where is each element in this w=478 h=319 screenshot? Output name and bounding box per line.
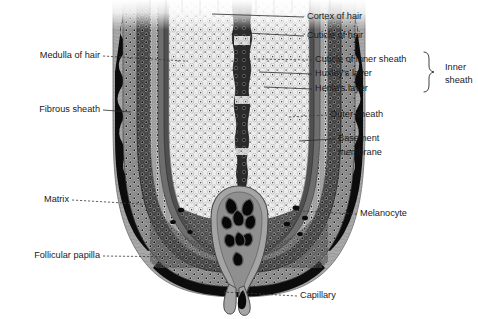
- label-capillary: Capillary: [300, 290, 336, 300]
- label-medulla-of-hair: Medulla of hair: [40, 50, 100, 60]
- hair-follicle-diagram: Medulla of hair Fibrous sheath Matrix Fo…: [0, 0, 478, 319]
- label-inner-sheath-line2: sheath: [445, 75, 473, 85]
- label-cuticle-of-hair: Cuticle of hair: [307, 30, 363, 40]
- label-basement-membrane-line1: Basement: [338, 133, 380, 143]
- label-matrix: Matrix: [44, 194, 69, 204]
- label-outer-sheath: Outer sheath: [330, 109, 383, 119]
- label-cuticle-of-inner-sheath: Cuticle of inner sheath: [315, 54, 406, 64]
- label-huxleys-layer: Huxley's layer: [315, 68, 372, 78]
- label-basement-membrane-line2: membrane: [338, 147, 382, 157]
- label-henles-layer: Henle's layer: [315, 83, 368, 93]
- follicle-illustration: Medulla of hair Fibrous sheath Matrix Fo…: [0, 0, 478, 319]
- label-melanocyte: Melanocyte: [360, 208, 407, 218]
- label-follicular-papilla: Follicular papilla: [34, 250, 101, 260]
- label-inner-sheath-line1: Inner: [445, 62, 466, 72]
- label-cortex-of-hair: Cortex of hair: [307, 11, 362, 21]
- label-fibrous-sheath: Fibrous sheath: [39, 104, 100, 114]
